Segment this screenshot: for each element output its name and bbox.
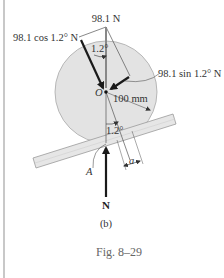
figure-caption: Fig. 8–29 bbox=[96, 245, 142, 259]
offset-label: a bbox=[129, 155, 134, 166]
angle-top-label: 1.2° bbox=[91, 43, 108, 54]
angle-bottom-label: 1.2° bbox=[106, 125, 123, 136]
free-body-diagram: 98.1 N 98.1 cos 1.2° N 98.1 sin 1.2° N 1… bbox=[0, 0, 224, 278]
center-point bbox=[104, 90, 108, 94]
point-a-label: A bbox=[85, 166, 93, 177]
subfigure-label: (b) bbox=[100, 218, 113, 230]
center-label: O bbox=[95, 87, 103, 98]
cos-component-label: 98.1 cos 1.2° N bbox=[13, 32, 79, 43]
normal-force-label: N bbox=[102, 199, 110, 211]
sin-component-label: 98.1 sin 1.2° N bbox=[158, 68, 222, 79]
weight-label: 98.1 N bbox=[92, 13, 121, 24]
radius-label: 100 mm bbox=[113, 93, 148, 104]
